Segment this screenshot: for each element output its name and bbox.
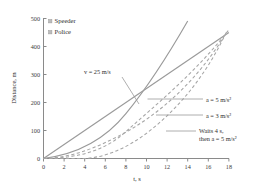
- legend-marker-police: [49, 31, 52, 34]
- x-tick-label-4: 4: [83, 163, 86, 170]
- x-tick-label-2: 2: [63, 163, 66, 170]
- y-tick-label-200: 200: [31, 99, 40, 106]
- x-axis-label: t, s: [133, 175, 141, 182]
- legend-label-police: Police: [55, 28, 72, 35]
- legend-label-speeder: Speeder: [55, 17, 77, 24]
- y-tick-label-0: 0: [37, 155, 40, 162]
- x-tick-label-16: 16: [205, 163, 211, 170]
- y-tick-label-100: 100: [31, 127, 40, 134]
- y-tick-labels: 500 400 300 200 100 0: [31, 15, 40, 162]
- x-tick-label-10: 10: [143, 163, 149, 170]
- x-tick-label-0: 0: [42, 163, 45, 170]
- y-tick-label-500: 500: [31, 15, 40, 22]
- y-axis: [44, 18, 47, 159]
- legend-marker-speeder: [49, 20, 52, 23]
- y-tick-label-300: 300: [31, 71, 40, 78]
- x-axis: [44, 159, 230, 162]
- x-tick-label-14: 14: [185, 163, 191, 170]
- x-tick-label-18: 18: [226, 163, 232, 170]
- x-tick-label-6: 6: [104, 163, 107, 170]
- annotation-v25: v = 25 m/s: [84, 68, 111, 75]
- annotation-a3: a = 3 m/s²: [206, 112, 231, 119]
- distance-time-chart: 500 400 300 200 100 0 Distance, m 0 2 4 …: [0, 0, 260, 188]
- chart-figure: 500 400 300 200 100 0 Distance, m 0 2 4 …: [0, 0, 260, 188]
- x-tick-labels: 0 2 4 6 8 10 12 14 16 18: [42, 163, 232, 170]
- y-tick-label-400: 400: [31, 43, 40, 50]
- x-tick-label-8: 8: [124, 163, 127, 170]
- annotation-a5: a = 5 m/s²: [206, 96, 231, 103]
- chart-legend: Speeder Police: [49, 17, 77, 35]
- x-tick-label-12: 12: [164, 163, 170, 170]
- y-axis-label: Distance, m: [10, 71, 17, 103]
- annotation-waits4-line1: Waits 4 s,: [199, 127, 224, 134]
- annotation-waits4-line2: then a = 5 m/s²: [199, 135, 237, 142]
